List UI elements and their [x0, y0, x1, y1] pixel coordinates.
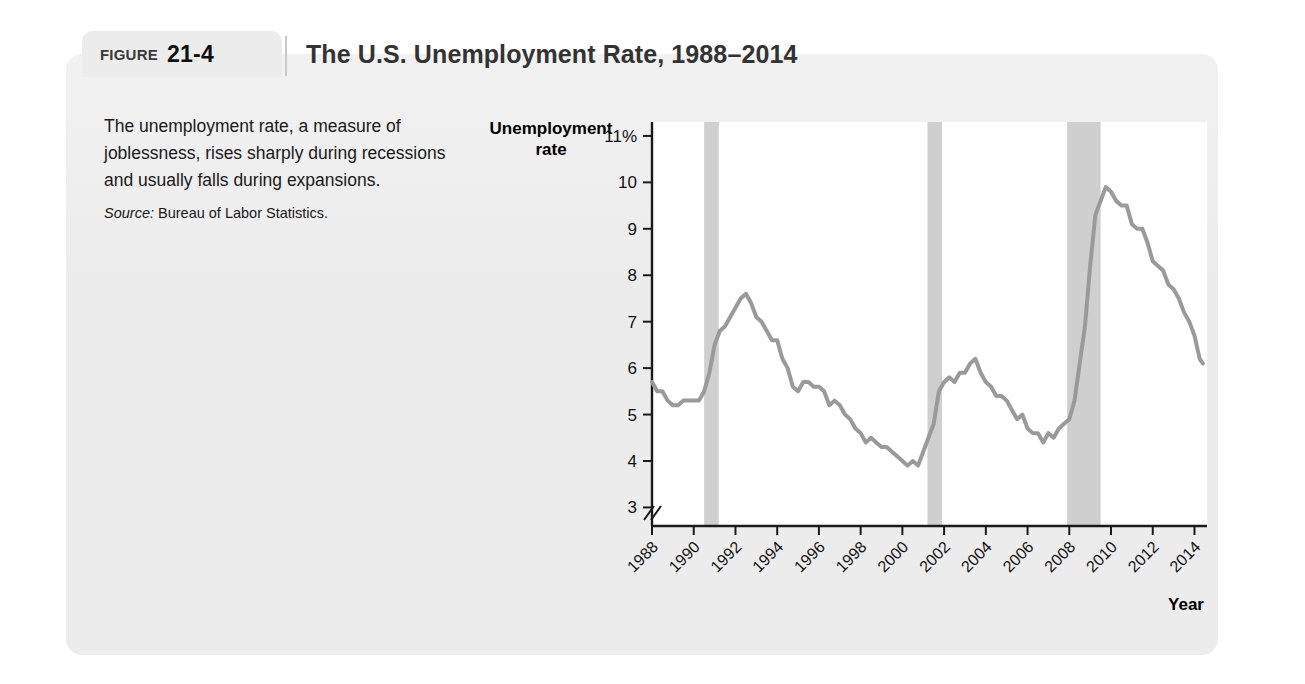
caption-text: The unemployment rate, a measure of jobl…: [104, 113, 452, 194]
svg-text:2006: 2006: [999, 538, 1036, 575]
chart-area: Unemployment rate Year 11%10987654319881…: [470, 108, 1210, 628]
svg-text:10: 10: [618, 173, 637, 192]
svg-text:1996: 1996: [791, 538, 828, 575]
svg-text:2004: 2004: [958, 538, 995, 575]
source-value: Bureau of Labor Statistics.: [154, 205, 328, 221]
svg-text:8: 8: [628, 266, 637, 285]
tab-divider: [285, 36, 287, 76]
figure-number: 21-4: [167, 41, 214, 68]
source-label: Source:: [104, 205, 154, 221]
svg-text:2002: 2002: [916, 538, 953, 575]
figure-number-tab: FIGURE 21-4: [82, 31, 282, 77]
svg-text:7: 7: [628, 313, 637, 332]
svg-text:4: 4: [628, 452, 637, 471]
svg-text:3: 3: [628, 498, 637, 517]
svg-text:1994: 1994: [749, 538, 786, 575]
caption-source: Source: Bureau of Labor Statistics.: [104, 203, 452, 223]
svg-text:2010: 2010: [1083, 538, 1120, 575]
svg-text:2000: 2000: [874, 538, 911, 575]
svg-text:2008: 2008: [1041, 538, 1078, 575]
svg-text:5: 5: [628, 406, 637, 425]
svg-text:1990: 1990: [666, 538, 703, 575]
svg-text:9: 9: [628, 220, 637, 239]
svg-text:6: 6: [628, 359, 637, 378]
svg-text:2012: 2012: [1125, 538, 1162, 575]
unemployment-line-chart: 11%1098765431988199019921994199619982000…: [470, 108, 1210, 628]
svg-text:1998: 1998: [833, 538, 870, 575]
page-title: The U.S. Unemployment Rate, 1988–2014: [306, 40, 797, 69]
figure-label-word: FIGURE: [100, 46, 158, 63]
svg-text:1988: 1988: [624, 538, 661, 575]
svg-text:1992: 1992: [707, 538, 744, 575]
caption-block: The unemployment rate, a measure of jobl…: [104, 113, 452, 223]
svg-text:11%: 11%: [604, 127, 637, 146]
svg-text:2014: 2014: [1166, 538, 1203, 575]
